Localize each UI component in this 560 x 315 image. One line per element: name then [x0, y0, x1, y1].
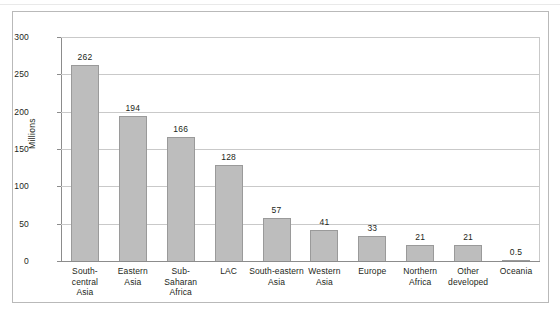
bar-slot: 21: [396, 37, 444, 261]
x-tick-label-line: LAC: [220, 266, 237, 276]
scan-artifact-line: [0, 4, 560, 5]
y-tick-mark: [57, 261, 61, 262]
bar-value-label: 194: [125, 103, 140, 113]
bar-slot: 33: [348, 37, 396, 261]
x-tick-label-line: central: [72, 277, 98, 287]
y-tick-label: 0: [0, 256, 29, 266]
x-tick-label-line: Western: [308, 266, 340, 276]
bar-slot: 128: [205, 37, 253, 261]
x-tick-label-line: Oceania: [500, 266, 532, 276]
x-tick-label-line: Asia: [316, 277, 333, 287]
x-tick-label-line: Africa: [409, 277, 431, 287]
chart-figure-frame: Millions 26219416612857413321210.5 30025…: [12, 11, 549, 303]
x-tick-label-line: Asia: [124, 277, 141, 287]
bar: [502, 260, 530, 261]
y-tick-mark: [57, 112, 61, 113]
y-tick-label: 300: [0, 32, 29, 42]
bar: [310, 230, 338, 261]
x-tick-label-line: Europe: [358, 266, 386, 276]
x-tick-label-line: Northern: [403, 266, 437, 276]
bar: [119, 116, 147, 261]
bar-value-label: 33: [367, 223, 377, 233]
y-tick-mark: [57, 149, 61, 150]
bar-slot: 166: [157, 37, 205, 261]
bar-value-label: 166: [173, 124, 188, 134]
bar: [406, 245, 434, 261]
x-tick-label-line: Asia: [268, 277, 285, 287]
plot-area: 26219416612857413321210.5: [61, 37, 540, 261]
bar-value-label: 21: [415, 232, 425, 242]
gridline-0: [61, 261, 540, 262]
bar-value-label: 21: [463, 232, 473, 242]
bar: [71, 65, 99, 261]
x-tick-label-line: Asia: [76, 287, 93, 297]
x-tick-label-line: Eastern: [118, 266, 148, 276]
y-tick-label: 250: [0, 69, 29, 79]
y-tick-mark: [57, 186, 61, 187]
y-tick-mark: [57, 74, 61, 75]
bar-value-label: 57: [272, 205, 282, 215]
y-tick-label: 200: [0, 107, 29, 117]
bar-value-label: 262: [78, 52, 93, 62]
bar-value-label: 41: [320, 217, 330, 227]
bar-slot: 262: [61, 37, 109, 261]
y-tick-mark: [57, 37, 61, 38]
bar: [358, 236, 386, 261]
x-tick-label-line: Sub-: [172, 266, 190, 276]
bar-value-label: 0.5: [510, 247, 522, 257]
y-tick-label: 100: [0, 181, 29, 191]
x-tick-label-line: South-: [72, 266, 98, 276]
bar-slot: 0.5: [492, 37, 540, 261]
x-tick-label: Oceania: [486, 266, 546, 277]
bar-slot: 41: [301, 37, 349, 261]
x-tick-label-line: Saharan: [164, 277, 197, 287]
x-tick-label-line: Other: [457, 266, 479, 276]
bar-value-label: 128: [221, 152, 236, 162]
x-tick-label-line: Africa: [170, 287, 192, 297]
bar: [215, 165, 243, 261]
bar-slot: 21: [444, 37, 492, 261]
y-tick-label: 50: [0, 219, 29, 229]
bar-slot: 57: [253, 37, 301, 261]
bar: [167, 137, 195, 261]
x-tick-label-line: developed: [448, 277, 488, 287]
y-tick-mark: [57, 224, 61, 225]
bar: [263, 218, 291, 261]
bar-slot: 194: [109, 37, 157, 261]
y-tick-label: 150: [0, 144, 29, 154]
bar: [454, 245, 482, 261]
